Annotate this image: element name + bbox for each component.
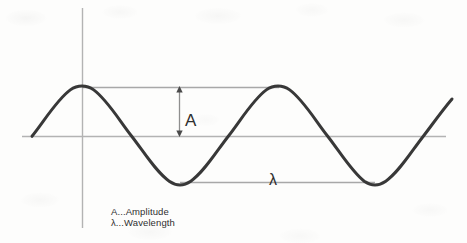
wavelength-symbol-label: λ <box>269 172 277 188</box>
legend-item-amplitude: A...Amplitude <box>111 206 175 217</box>
amplitude-symbol-label: A <box>185 112 196 129</box>
wave-plot <box>0 0 467 243</box>
legend-item-wavelength: λ...Wavelength <box>111 217 175 228</box>
wave-diagram-figure: A λ A...Amplitude λ...Wavelength <box>0 0 467 243</box>
legend: A...Amplitude λ...Wavelength <box>111 206 175 228</box>
sine-wave-curve <box>32 86 452 185</box>
amplitude-arrow <box>176 86 182 137</box>
